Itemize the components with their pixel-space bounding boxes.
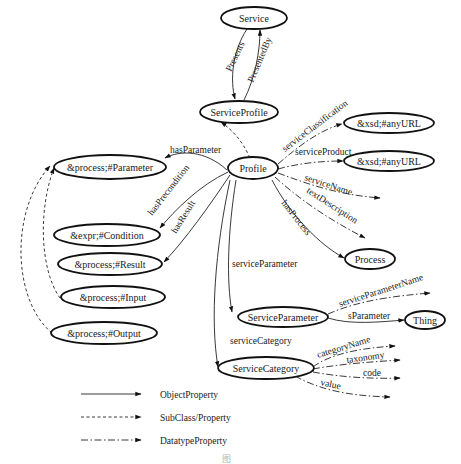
svg-text:&xsd;#anyURL: &xsd;#anyURL: [357, 156, 421, 167]
node-process: Process: [345, 249, 395, 269]
node-process-input: &process;#Input: [61, 286, 165, 308]
node-process-output: &process;#Output: [51, 322, 157, 344]
svg-text:Thing: Thing: [413, 315, 437, 326]
edge-label-service-parameter-name: serviceParameterName: [338, 272, 425, 309]
edge-service-name: serviceName: [278, 172, 380, 198]
node-xsd-anyuri-1: &xsd;#anyURL: [344, 113, 434, 133]
edge-label-presents: Presents: [224, 40, 247, 73]
edge-label-has-parameter: hasParameter: [170, 145, 222, 155]
node-profile: Profile: [228, 157, 278, 179]
node-service-parameter: ServiceParameter: [238, 307, 328, 327]
figure-caption: 图: [222, 454, 231, 464]
svg-text:&process;#Input: &process;#Input: [80, 292, 147, 303]
svg-text:ServiceProfile: ServiceProfile: [210, 107, 268, 118]
legend-item-subclass-property: SubClass/Property: [81, 413, 231, 423]
edge-label-service-product: serviceProduct: [295, 147, 352, 157]
legend-item-datatype-property: DatatypeProperty: [81, 436, 227, 446]
svg-text:&process;#Parameter: &process;#Parameter: [67, 162, 154, 173]
edge-s-parameter: sParameter: [328, 311, 404, 322]
legend-item-object-property: ObjectProperty: [81, 390, 218, 400]
edge-value: value: [295, 376, 390, 397]
edge-label-service-classification: serviceClassification: [280, 98, 349, 154]
svg-text:&expr;#Condition: &expr;#Condition: [70, 230, 143, 241]
node-thing: Thing: [405, 311, 445, 329]
svg-text:&process;#Output: &process;#Output: [67, 328, 141, 339]
node-service: Service: [221, 7, 287, 29]
svg-text:ServiceCategory: ServiceCategory: [233, 363, 300, 374]
svg-text:Process: Process: [355, 254, 386, 265]
svg-text:SubClass/Property: SubClass/Property: [160, 413, 231, 423]
svg-text:&xsd;#anyURL: &xsd;#anyURL: [357, 118, 421, 129]
node-xsd-anyuri-2: &xsd;#anyURL: [344, 151, 434, 171]
edge-code: code: [313, 368, 400, 378]
svg-text:ObjectProperty: ObjectProperty: [160, 390, 218, 400]
edge-label-code: code: [363, 368, 381, 378]
edge-profile-subclass-serviceprofile: [221, 122, 250, 158]
edge-label-s-parameter: sParameter: [348, 311, 391, 321]
edge-service-parameter-name: serviceParameterName: [328, 272, 430, 314]
edge-label-service-category: serviceCategory: [230, 336, 292, 346]
legend: ObjectProperty SubClass/Property Datatyp…: [81, 390, 231, 446]
node-service-profile: ServiceProfile: [200, 101, 278, 123]
svg-text:Profile: Profile: [239, 163, 267, 174]
edge-label-service-parameter: serviceParameter: [232, 259, 298, 269]
edge-label-taxonomy: taxonomy: [346, 350, 385, 365]
ontology-diagram: Presents PresentedBy hasParameter hasPre…: [0, 0, 461, 464]
node-service-category: ServiceCategory: [218, 357, 314, 379]
edge-presented-by: PresentedBy: [244, 30, 274, 100]
edge-has-parameter: hasParameter: [165, 145, 227, 170]
node-process-parameter: &process;#Parameter: [54, 155, 166, 179]
svg-text:DatatypeProperty: DatatypeProperty: [160, 436, 227, 446]
svg-text:Service: Service: [239, 13, 270, 24]
edge-presents: Presents: [224, 29, 247, 99]
svg-text:ServiceParameter: ServiceParameter: [248, 312, 319, 323]
svg-text:&process;#Result: &process;#Result: [74, 259, 145, 270]
edge-label-value: value: [320, 377, 342, 391]
node-process-result: &process;#Result: [58, 253, 162, 275]
edge-service-category: serviceCategory: [214, 180, 292, 367]
node-expr-condition: &expr;#Condition: [54, 224, 160, 246]
